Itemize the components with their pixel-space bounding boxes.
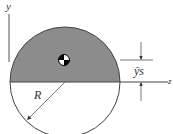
arrow-down-icon <box>139 56 142 60</box>
semicircle-diagram <box>0 0 173 134</box>
centroid-distance-label: ȳs <box>134 65 144 77</box>
y-axis-label: y <box>6 1 11 12</box>
radius-label: R <box>34 89 41 101</box>
z-axis-label: z <box>168 77 172 86</box>
centroid-icon <box>59 55 70 66</box>
arrow-up-icon <box>139 82 142 86</box>
